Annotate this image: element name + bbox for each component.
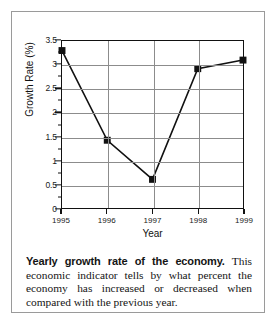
- chart-area: Growth Rate (%) 00.511.522.533.5 Year 19…: [12, 12, 264, 247]
- plot-frame: [61, 40, 244, 209]
- gridline-horizontal: [62, 138, 243, 139]
- y-axis-tick-mark: [55, 112, 61, 113]
- y-axis-tick-mark: [55, 136, 61, 137]
- x-axis-tick-label: 1997: [144, 216, 162, 225]
- x-axis-tick-mark: [60, 209, 61, 214]
- y-axis-minor-tick-mark: [58, 172, 62, 173]
- gridline-vertical: [108, 41, 109, 208]
- y-axis-tick-mark: [55, 88, 61, 89]
- gridline-horizontal: [62, 113, 243, 114]
- x-axis-tick-mark: [243, 209, 244, 214]
- data-line: [62, 51, 243, 180]
- data-point-marker: [149, 176, 156, 183]
- gridline-vertical: [154, 41, 155, 208]
- y-axis-minor-tick-mark: [58, 52, 62, 53]
- data-point-marker: [240, 57, 247, 64]
- y-axis-tick-mark: [55, 160, 61, 161]
- figure-caption: Yearly growth rate of the economy. This …: [26, 255, 252, 309]
- y-axis-tick-mark: [55, 184, 61, 185]
- gridline-horizontal: [62, 89, 243, 90]
- caption-lead: Yearly growth rate of the economy.: [26, 255, 225, 267]
- y-axis-tick-mark: [55, 39, 61, 40]
- y-axis-minor-tick-mark: [58, 148, 62, 149]
- data-point-marker: [59, 47, 66, 54]
- y-axis-minor-tick-mark: [58, 124, 62, 125]
- plot-inner: [62, 41, 243, 208]
- x-axis-tick-label: 1998: [189, 216, 207, 225]
- x-axis-tick-label: 1999: [235, 216, 253, 225]
- x-axis-tick-mark: [152, 209, 153, 214]
- x-axis-tick-mark: [198, 209, 199, 214]
- figure-panel: Growth Rate (%) 00.511.522.533.5 Year 19…: [11, 11, 265, 313]
- x-axis-tick-mark: [106, 209, 107, 214]
- y-axis-tick-labels: 00.511.522.533.5: [32, 40, 57, 209]
- x-axis-title: Year: [61, 228, 244, 239]
- y-axis-minor-tick-mark: [58, 100, 62, 101]
- gridline-vertical: [199, 41, 200, 208]
- gridline-horizontal: [62, 162, 243, 163]
- y-axis-tick-mark: [55, 63, 61, 64]
- y-axis-minor-tick-mark: [58, 76, 62, 77]
- y-axis-minor-tick-mark: [58, 196, 62, 197]
- x-axis-tick-label: 1995: [52, 216, 70, 225]
- x-axis-tick-label: 1996: [98, 216, 116, 225]
- gridline-horizontal: [62, 65, 243, 66]
- gridline-horizontal: [62, 186, 243, 187]
